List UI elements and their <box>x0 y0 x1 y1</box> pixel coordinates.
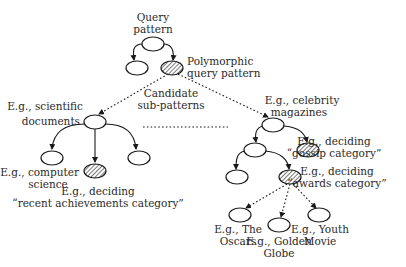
candidate-label-2: sub-patterns <box>137 99 204 111</box>
left-child-node <box>126 61 148 75</box>
edge-sci-cs <box>52 124 85 149</box>
golden-globe-node <box>268 218 290 232</box>
polymorphic-label-2: query pattern <box>187 67 261 79</box>
scientific-node <box>84 115 106 129</box>
computer-science-node <box>41 151 63 165</box>
dotted-edge-golden-globe <box>281 184 290 217</box>
celebrity-label-2: magazines <box>271 106 327 118</box>
edge-mid-left <box>236 151 245 169</box>
oscars-label-1: E.g., The <box>214 223 262 235</box>
edge-sci-right <box>105 124 136 149</box>
recent-label-1: E.g., deciding <box>61 185 135 197</box>
polymorphic-label-1: Polymorphic <box>187 55 253 67</box>
golden-globe-label-2: Globe <box>263 247 294 259</box>
awards-label-1: E.g., deciding <box>300 165 374 177</box>
scientific-label-1: E.g., scientific <box>7 100 83 112</box>
edge-celeb-mid <box>256 126 263 142</box>
root-node <box>142 37 164 51</box>
celebrity-label-1: E.g., celebrity <box>265 94 340 106</box>
celebrity-mid-node <box>244 143 266 157</box>
edge-mid-awards <box>265 151 289 169</box>
youth-movie-node <box>308 208 330 222</box>
scientific-subtree: E.g., scientific documents E.g., compute… <box>0 100 184 209</box>
youth-movie-label-2: Movie <box>304 235 337 247</box>
query-pattern-group: Query pattern Polymorphic query pattern <box>126 11 261 79</box>
celebrity-node <box>262 118 284 132</box>
recent-label-2: “recent achievements category” <box>12 197 183 209</box>
dotted-edge-oscars <box>246 184 287 208</box>
edge-root-left <box>133 44 143 60</box>
query-pattern-label-2: pattern <box>133 23 173 35</box>
golden-globe-label-1: E.g., Golden <box>246 235 312 247</box>
recent-achievements-node <box>84 164 106 178</box>
polymorphic-node <box>161 61 183 75</box>
celebrity-subtree: E.g., celebrity magazines E.g., deciding… <box>214 94 387 259</box>
edge-root-poly <box>163 44 173 60</box>
oscars-node <box>229 208 251 222</box>
query-pattern-label-1: Query <box>137 11 170 23</box>
gossip-label-2: “gossip category” <box>287 147 382 159</box>
awards-label-2: “awards category” <box>287 177 386 189</box>
computer-science-label-1: E.g., computer <box>0 166 80 178</box>
celebrity-left-leaf-node <box>226 170 248 184</box>
gossip-label-1: E.g., deciding <box>297 135 371 147</box>
youth-movie-label-1: E.g., Youth <box>291 223 349 235</box>
sci-right-node <box>128 151 150 165</box>
candidate-label-1: Candidate <box>144 87 199 99</box>
polymorphic-query-pattern-diagram: Query pattern Polymorphic query pattern … <box>0 0 406 267</box>
